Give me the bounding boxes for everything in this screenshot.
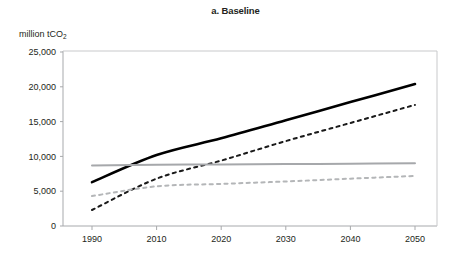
data-series-group: [92, 84, 415, 210]
y-axis-tick-labels: 05,00010,00015,00020,00025,000: [28, 47, 56, 231]
x-tick-label: 2030: [276, 234, 296, 244]
y-tick-label: 25,000: [28, 47, 56, 57]
x-tick-label: 2040: [340, 234, 360, 244]
data-series-line-dashed-black: [92, 105, 415, 210]
x-tick-label: 1990: [82, 234, 102, 244]
chart-figure: a. Baseline million tCO2 05,00010,00015,…: [0, 0, 471, 261]
plot-frame: [63, 51, 437, 226]
x-tick-marks: [92, 226, 415, 230]
y-tick-label: 0: [51, 221, 56, 231]
x-tick-label: 2010: [147, 234, 167, 244]
x-tick-label: 2020: [211, 234, 231, 244]
line-chart-plot: 05,00010,00015,00020,00025,000 199020102…: [0, 0, 471, 261]
data-series-line-solid-black: [92, 84, 415, 182]
y-tick-label: 10,000: [28, 152, 56, 162]
data-series-line-solid-gray: [92, 163, 415, 165]
x-tick-label: 2050: [405, 234, 425, 244]
x-axis-tick-labels: 199020102020203020402050: [82, 234, 425, 244]
y-tick-label: 15,000: [28, 117, 56, 127]
y-tick-label: 20,000: [28, 82, 56, 92]
y-tick-label: 5,000: [33, 186, 56, 196]
